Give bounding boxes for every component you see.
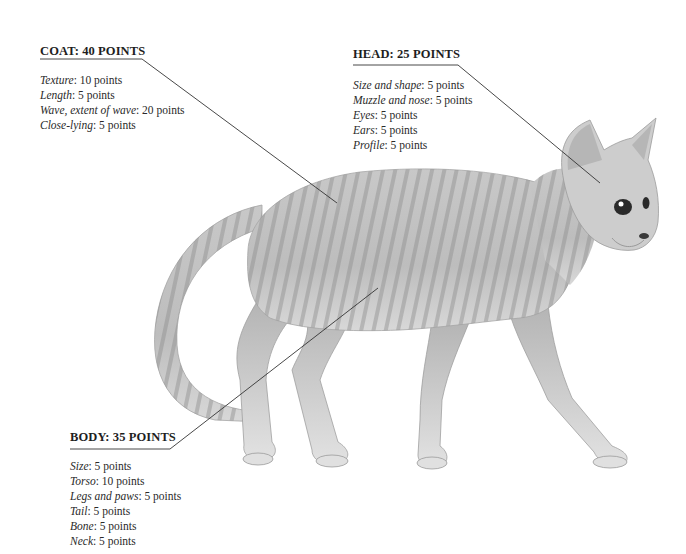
head-item: Eyes: 5 points <box>353 108 513 123</box>
cat-front-leg-far <box>418 320 470 467</box>
body-label-block: BODY: 35 POINTS Size: 5 points Torso: 10… <box>70 430 230 549</box>
head-heading: HEAD: 25 POINTS <box>353 47 513 62</box>
coat-item: Length: 5 points <box>40 88 190 103</box>
cat-paw <box>593 456 627 468</box>
coat-heading: COAT: 40 POINTS <box>40 44 190 59</box>
coat-items: Texture: 10 points Length: 5 points Wave… <box>40 73 190 133</box>
head-item: Ears: 5 points <box>353 123 513 138</box>
coat-item: Texture: 10 points <box>40 73 190 88</box>
head-item: Muzzle and nose: 5 points <box>353 93 513 108</box>
body-item: Torso: 10 points <box>70 474 230 489</box>
cat-nose <box>639 233 649 239</box>
cat-paw <box>243 453 273 465</box>
cat-paw <box>316 455 348 467</box>
cat-paw <box>417 457 447 469</box>
coat-item: Close-lying: 5 points <box>40 118 190 133</box>
cat-front-leg-near <box>510 305 627 466</box>
body-item: Size: 5 points <box>70 459 230 474</box>
cat-back-leg-far <box>237 300 296 460</box>
body-item: Tail: 5 points <box>70 504 230 519</box>
head-items: Size and shape: 5 points Muzzle and nose… <box>353 78 513 153</box>
cat-eye-far <box>643 197 650 209</box>
body-item: Neck: 5 points <box>70 534 230 549</box>
body-item: Bone: 5 points <box>70 519 230 534</box>
body-items: Size: 5 points Torso: 10 points Legs and… <box>70 459 230 549</box>
cat-eye-near <box>614 199 632 215</box>
head-item: Profile: 5 points <box>353 138 513 153</box>
body-item: Legs and paws: 5 points <box>70 489 230 504</box>
coat-label-block: COAT: 40 POINTS Texture: 10 points Lengt… <box>40 44 190 133</box>
head-item: Size and shape: 5 points <box>353 78 513 93</box>
body-heading: BODY: 35 POINTS <box>70 430 230 445</box>
coat-item: Wave, extent of wave: 20 points <box>40 103 190 118</box>
head-label-block: HEAD: 25 POINTS Size and shape: 5 points… <box>353 47 513 153</box>
